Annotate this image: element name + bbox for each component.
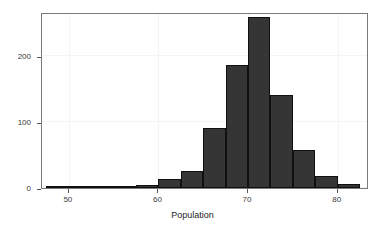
histogram-bar	[248, 17, 270, 188]
x-tick-mark	[157, 189, 158, 193]
y-tick-mark	[37, 189, 41, 190]
histogram-bar	[181, 171, 203, 188]
histogram-bar	[46, 186, 68, 188]
histogram-bar	[293, 150, 315, 188]
histogram-bar	[338, 184, 360, 188]
x-tick-label: 50	[55, 196, 81, 204]
y-tick-label: 200	[5, 53, 31, 61]
histogram-bar	[226, 65, 248, 188]
x-tick-mark	[247, 189, 248, 193]
plot-panel	[41, 13, 368, 189]
histogram-bar	[69, 186, 91, 188]
y-tick-label: 100	[5, 119, 31, 127]
x-tick-label: 60	[144, 196, 170, 204]
histogram-bar	[270, 95, 292, 188]
y-tick-mark	[37, 123, 41, 124]
y-tick-label: 0	[5, 185, 31, 193]
x-tick-mark	[68, 189, 69, 193]
histogram-chart: 0100200 50607080 Population	[0, 0, 385, 233]
histogram-bar	[91, 186, 113, 188]
histogram-bar	[203, 128, 225, 188]
histogram-bar	[136, 185, 158, 188]
x-tick-label: 80	[324, 196, 350, 204]
histogram-bars	[42, 14, 367, 188]
histogram-bar	[114, 186, 136, 188]
x-tick-label: 70	[234, 196, 260, 204]
x-axis-title: Population	[0, 210, 385, 220]
histogram-bar	[158, 179, 180, 188]
x-tick-mark	[337, 189, 338, 193]
y-tick-mark	[37, 57, 41, 58]
histogram-bar	[315, 176, 337, 188]
